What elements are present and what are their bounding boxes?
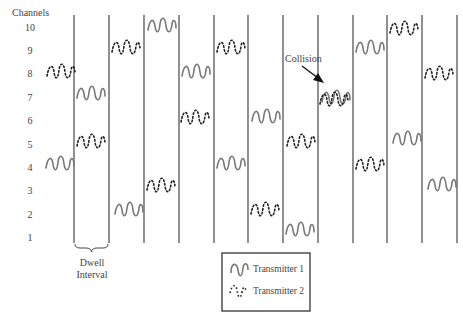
t1-wave-icon xyxy=(252,109,280,123)
channel-label-5: 5 xyxy=(28,139,33,150)
frequency-hopping-diagram: Channels 10 9 8 7 6 5 4 3 2 1 Dwell Inte… xyxy=(0,0,463,315)
t2-wave-icon xyxy=(287,134,315,148)
channel-label-3: 3 xyxy=(28,185,33,196)
t2-wave-icon xyxy=(217,40,245,54)
t1-wave-icon xyxy=(182,64,210,78)
dwell-label-line1: Dwell xyxy=(80,257,105,268)
t1-wave-icon xyxy=(217,156,245,170)
t1-wave-icon xyxy=(148,18,176,32)
legend-box xyxy=(222,253,310,311)
t1-wave-icon xyxy=(393,131,421,145)
legend-t2-label: Transmitter 2 xyxy=(253,286,304,296)
t1-wave-icon xyxy=(286,222,314,236)
legend-t1-label: Transmitter 1 xyxy=(253,264,304,274)
transmitter2-signals xyxy=(47,21,453,216)
channel-label-8: 8 xyxy=(28,68,33,79)
channel-label-9: 9 xyxy=(28,45,33,56)
t2-wave-icon xyxy=(251,202,279,216)
t2-wave-icon xyxy=(47,64,75,78)
t1-wave-icon xyxy=(428,177,456,191)
t1-wave-icon xyxy=(115,202,143,216)
t1-wave-icon xyxy=(46,156,74,170)
dwell-interval-brace-icon xyxy=(75,244,108,252)
t1-wave-icon xyxy=(77,86,105,100)
t1-wave-icon xyxy=(356,40,384,54)
t2-wave-icon xyxy=(390,21,418,35)
t1-wave-icon-collision xyxy=(322,90,350,104)
channel-label-2: 2 xyxy=(28,209,33,220)
t2-wave-icon xyxy=(425,66,453,80)
channel-label-4: 4 xyxy=(28,162,33,173)
t2-wave-icon xyxy=(112,40,140,54)
collision-arrow-icon xyxy=(302,66,324,83)
channel-label-6: 6 xyxy=(28,115,33,126)
legend: Transmitter 1 Transmitter 2 xyxy=(222,253,310,311)
transmitter1-signals xyxy=(46,18,456,236)
t2-wave-icon xyxy=(77,134,105,148)
t2-wave-icon xyxy=(181,110,209,124)
channel-labels: 10 9 8 7 6 5 4 3 2 1 xyxy=(25,22,35,243)
t2-wave-icon xyxy=(356,157,384,171)
channel-label-10: 10 xyxy=(25,22,35,33)
t2-wave-icon xyxy=(147,178,175,192)
channel-label-7: 7 xyxy=(28,92,33,103)
dwell-interval-lines xyxy=(74,15,457,243)
channel-label-1: 1 xyxy=(28,232,33,243)
dwell-label-line2: Interval xyxy=(76,269,107,280)
collision-label: Collision xyxy=(285,53,322,64)
y-axis-title: Channels xyxy=(12,7,49,18)
